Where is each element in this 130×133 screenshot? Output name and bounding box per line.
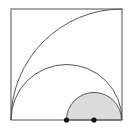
shaded-small-semicircle — [67, 92, 122, 120]
point-large-center — [64, 117, 69, 122]
point-small-center — [91, 117, 96, 122]
geometry-diagram — [0, 0, 130, 133]
